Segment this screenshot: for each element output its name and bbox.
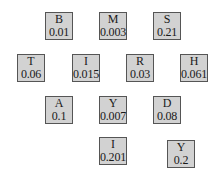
- node-value: 0.1: [52, 110, 66, 123]
- node-r: R 0.03: [126, 54, 154, 82]
- node-value: 0.01: [49, 26, 69, 39]
- node-h: H 0.061: [180, 54, 208, 82]
- node-value: 0.21: [157, 26, 177, 39]
- node-i-2: I 0.201: [99, 137, 127, 165]
- node-value: 0.201: [100, 151, 126, 164]
- node-value: 0.2: [174, 154, 188, 167]
- node-i: I 0.015: [72, 54, 100, 82]
- node-value: 0.061: [181, 68, 207, 81]
- node-s: S 0.21: [153, 12, 181, 40]
- node-a: A 0.1: [45, 96, 73, 124]
- node-value: 0.003: [100, 26, 126, 39]
- node-value: 0.08: [157, 110, 177, 123]
- node-m: M 0.003: [99, 12, 127, 40]
- node-value: 0.03: [130, 68, 150, 81]
- node-y-2: Y 0.2: [167, 140, 195, 168]
- node-value: 0.007: [100, 110, 126, 123]
- node-value: 0.015: [73, 68, 99, 81]
- node-value: 0.06: [21, 68, 41, 81]
- node-d: D 0.08: [153, 96, 181, 124]
- node-b: B 0.01: [45, 12, 73, 40]
- node-y: Y 0.007: [99, 96, 127, 124]
- node-t: T 0.06: [17, 54, 45, 82]
